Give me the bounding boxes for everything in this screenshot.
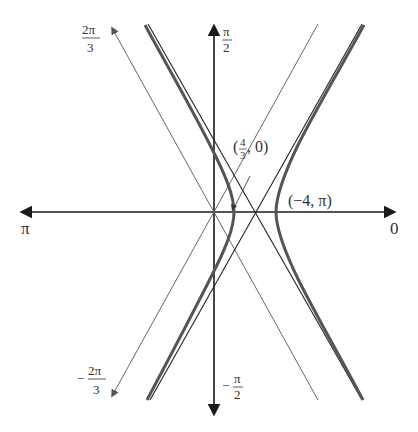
label-neg-2pi-over-3-num: 2π: [88, 363, 102, 378]
point-label-4-3-den: 3: [240, 149, 246, 161]
label-neg-pi-over-2-den: 2: [234, 387, 241, 402]
label-pi-over-2-den: 2: [223, 40, 230, 55]
label-neg-2pi-over-3-den: 3: [93, 382, 100, 397]
label-neg-2pi-over-3-sign: −: [77, 371, 84, 386]
point-label-4-3-rest: , 0): [247, 138, 268, 156]
vertex-pointer: [234, 176, 250, 208]
label-angle-0: 0: [390, 219, 399, 238]
label-2pi-over-3-num: 2π: [82, 22, 96, 37]
label-2pi-over-3-den: 3: [87, 40, 94, 55]
label-angle-pi: π: [21, 219, 30, 238]
ray-neg-2pi-over-3: [112, 24, 318, 396]
label-neg-pi-over-2-num: π: [234, 371, 241, 386]
label-pi-over-2-num: π: [223, 24, 230, 39]
polar-hyperbola-diagram: 0 π π 2 − π 2 2π 3 − 2π 3 ( 4 3 , 0) (−4…: [0, 0, 418, 432]
point-label-4-3-num: 4: [240, 136, 246, 148]
point-label-neg4-pi: (−4, π): [288, 192, 332, 210]
point-label-4-3-open: (: [233, 138, 238, 156]
label-neg-pi-over-2-sign: −: [222, 378, 229, 393]
ray-2pi-over-3: [112, 28, 318, 400]
